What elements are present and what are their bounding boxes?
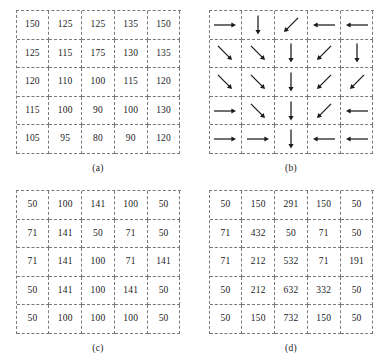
caption-d: (d) [205, 343, 377, 353]
value-cell: 125 [17, 40, 50, 69]
value-cell: 632 [275, 277, 308, 306]
value-cell: 175 [82, 40, 115, 69]
value-cell: 100 [82, 68, 115, 97]
arrow-left-icon [341, 11, 374, 40]
value-cell: 212 [242, 277, 275, 306]
value-cell: 115 [49, 40, 82, 69]
arrow-down-right-icon [242, 97, 275, 126]
value-cell: 71 [210, 220, 243, 249]
value-cell: 50 [148, 305, 181, 334]
value-cell: 100 [115, 305, 148, 334]
value-cell: 100 [82, 248, 115, 277]
value-cell: 110 [49, 68, 82, 97]
figure-container: 1501251251351501251151751301351201101001… [0, 0, 377, 359]
value-cell: 50 [341, 277, 374, 306]
arrow-down-left-icon [275, 11, 308, 40]
value-cell: 50 [341, 305, 374, 334]
arrow-down-right-icon [242, 68, 275, 97]
value-cell: 150 [242, 191, 275, 220]
arrow-down-right-icon [242, 40, 275, 69]
value-cell: 732 [275, 305, 308, 334]
value-cell: 212 [242, 248, 275, 277]
value-cell: 50 [210, 191, 243, 220]
arrow-down-icon [242, 11, 275, 40]
value-cell: 90 [82, 97, 115, 126]
value-cell: 150 [17, 11, 50, 40]
value-cell: 50 [17, 191, 50, 220]
value-cell: 50 [148, 220, 181, 249]
value-cell: 432 [242, 220, 275, 249]
grid-c: 5010014110050711415071507114110071141501… [16, 190, 181, 334]
arrow-right-icon [210, 125, 243, 154]
value-cell: 100 [82, 305, 115, 334]
arrow-left-icon [308, 11, 341, 40]
arrow-down-right-icon [210, 68, 243, 97]
value-cell: 100 [115, 97, 148, 126]
arrow-down-left-icon [308, 97, 341, 126]
value-cell: 120 [148, 68, 181, 97]
value-cell: 50 [82, 220, 115, 249]
value-cell: 150 [308, 305, 341, 334]
value-cell: 71 [308, 220, 341, 249]
value-cell: 100 [82, 277, 115, 306]
value-cell: 125 [49, 11, 82, 40]
value-cell: 100 [49, 191, 82, 220]
caption-c: (c) [12, 343, 184, 353]
value-cell: 120 [148, 125, 181, 154]
value-cell: 71 [17, 220, 50, 249]
arrow-down-right-icon [210, 40, 243, 69]
panel-a: 1501251251351501251151751301351201101001… [12, 10, 184, 173]
value-cell: 80 [82, 125, 115, 154]
value-cell: 125 [82, 11, 115, 40]
value-cell: 100 [49, 305, 82, 334]
arrow-down-left-icon [308, 40, 341, 69]
arrow-left-icon [341, 97, 374, 126]
arrow-down-icon [275, 125, 308, 154]
panel-b: (b) [205, 10, 377, 173]
value-cell: 100 [115, 191, 148, 220]
value-cell: 71 [115, 248, 148, 277]
arrow-left-icon [341, 125, 374, 154]
value-cell: 141 [49, 248, 82, 277]
value-cell: 291 [275, 191, 308, 220]
panel-c: 5010014110050711415071507114110071141501… [12, 190, 184, 353]
value-cell: 50 [148, 191, 181, 220]
value-cell: 150 [308, 191, 341, 220]
value-cell: 150 [242, 305, 275, 334]
value-cell: 100 [49, 97, 82, 126]
value-cell: 135 [148, 40, 181, 69]
caption-b: (b) [205, 163, 377, 173]
value-cell: 50 [341, 191, 374, 220]
value-cell: 141 [49, 220, 82, 249]
value-cell: 50 [210, 305, 243, 334]
value-cell: 130 [115, 40, 148, 69]
value-cell: 50 [275, 220, 308, 249]
value-cell: 115 [115, 68, 148, 97]
value-cell: 141 [115, 277, 148, 306]
arrow-right-icon [242, 125, 275, 154]
grid-b [209, 10, 374, 154]
value-cell: 95 [49, 125, 82, 154]
value-cell: 135 [115, 11, 148, 40]
arrow-down-left-icon [308, 68, 341, 97]
value-cell: 71 [308, 248, 341, 277]
value-cell: 130 [148, 97, 181, 126]
value-cell: 105 [17, 125, 50, 154]
grid-d: 5015029115050714325071507121253271191502… [209, 190, 374, 334]
arrow-down-left-icon [341, 68, 374, 97]
value-cell: 332 [308, 277, 341, 306]
value-cell: 50 [210, 277, 243, 306]
value-cell: 71 [115, 220, 148, 249]
panel-d: 5015029115050714325071507121253271191502… [205, 190, 377, 353]
arrow-down-icon [275, 97, 308, 126]
arrow-down-icon [275, 68, 308, 97]
arrow-left-icon [308, 125, 341, 154]
value-cell: 141 [49, 277, 82, 306]
value-cell: 532 [275, 248, 308, 277]
caption-a: (a) [12, 163, 184, 173]
arrow-right-icon [210, 97, 243, 126]
value-cell: 50 [17, 305, 50, 334]
value-cell: 120 [17, 68, 50, 97]
value-cell: 150 [148, 11, 181, 40]
value-cell: 115 [17, 97, 50, 126]
